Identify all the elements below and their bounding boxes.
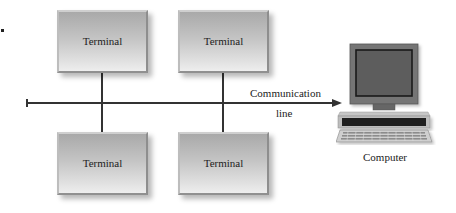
terminal-bottom-left: Terminal <box>57 132 148 195</box>
communication-line <box>26 102 336 104</box>
computer-label: Computer <box>363 151 407 163</box>
line-label: line <box>276 107 293 119</box>
connector-top-right <box>222 73 224 103</box>
computer-icon <box>336 42 436 148</box>
terminal-top-right: Terminal <box>178 10 269 73</box>
connector-top-left <box>101 73 103 103</box>
terminal-label: Terminal <box>204 35 244 47</box>
terminal-label: Terminal <box>83 35 123 47</box>
terminal-label: Terminal <box>204 157 244 169</box>
stray-mark <box>1 29 4 32</box>
terminal-bottom-right: Terminal <box>178 132 269 195</box>
connector-bottom-right <box>222 103 224 132</box>
connector-bottom-left <box>101 103 103 132</box>
terminal-top-left: Terminal <box>57 10 148 73</box>
communication-label: Communication <box>250 87 321 99</box>
terminal-label: Terminal <box>83 157 123 169</box>
